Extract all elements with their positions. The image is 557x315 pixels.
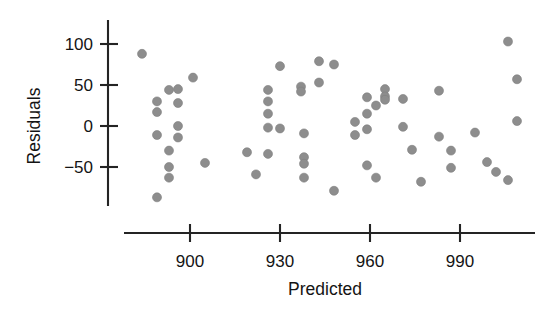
scatter-point [363, 109, 372, 118]
scatter-point [315, 57, 324, 66]
scatter-point [297, 87, 306, 96]
x-tick-label: 990 [446, 252, 474, 271]
scatter-point [138, 49, 147, 58]
scatter-point [447, 163, 456, 172]
scatter-point [165, 146, 174, 155]
y-tick-label: 0 [84, 117, 93, 136]
scatter-point [243, 148, 252, 157]
y-tick-label: 100 [65, 35, 93, 54]
scatter-point [435, 132, 444, 141]
scatter-point [417, 177, 426, 186]
scatter-point [372, 101, 381, 110]
x-tick-label: 930 [266, 252, 294, 271]
scatter-point [513, 117, 522, 126]
scatter-point [372, 173, 381, 182]
scatter-point [435, 86, 444, 95]
scatter-point [330, 186, 339, 195]
y-axis: −50050100 [64, 20, 118, 206]
scatter-point [264, 109, 273, 118]
scatter-point [492, 167, 501, 176]
y-tick-label: 50 [74, 76, 93, 95]
scatter-point [300, 129, 309, 138]
scatter-point [276, 124, 285, 133]
scatter-point [363, 93, 372, 102]
scatter-point [483, 158, 492, 167]
scatter-point [189, 73, 198, 82]
scatter-point [471, 128, 480, 137]
x-axis: 900930960990 [124, 224, 535, 271]
scatter-point [504, 176, 513, 185]
scatter-point [315, 78, 324, 87]
data-points-layer [138, 37, 522, 202]
scatter-point [300, 173, 309, 182]
scatter-point [276, 62, 285, 71]
scatter-point [264, 97, 273, 106]
scatter-point [153, 97, 162, 106]
scatter-point [447, 146, 456, 155]
scatter-point [264, 123, 273, 132]
scatter-plot-svg: −50050100 900930960990 Residuals Predict… [0, 0, 557, 315]
scatter-point [330, 60, 339, 69]
scatter-point [381, 95, 390, 104]
scatter-point [153, 108, 162, 117]
scatter-point [513, 75, 522, 84]
scatter-point [363, 161, 372, 170]
scatter-point [252, 170, 261, 179]
x-tick-label: 900 [176, 252, 204, 271]
scatter-point [174, 99, 183, 108]
scatter-point [363, 125, 372, 134]
scatter-point [153, 193, 162, 202]
scatter-point [351, 117, 360, 126]
residual-plot-figure: −50050100 900930960990 Residuals Predict… [0, 0, 557, 315]
scatter-point [351, 131, 360, 140]
scatter-point [264, 149, 273, 158]
scatter-point [174, 133, 183, 142]
scatter-point [174, 122, 183, 131]
scatter-point [408, 145, 417, 154]
scatter-point [174, 85, 183, 94]
scatter-point [504, 37, 513, 46]
x-tick-label: 960 [356, 252, 384, 271]
scatter-point [165, 163, 174, 172]
y-axis-title: Residuals [24, 87, 44, 164]
y-tick-label: −50 [64, 158, 93, 177]
scatter-point [264, 85, 273, 94]
scatter-point [300, 159, 309, 168]
scatter-point [165, 173, 174, 182]
scatter-point [201, 158, 210, 167]
scatter-point [153, 131, 162, 140]
scatter-point [399, 94, 408, 103]
scatter-point [399, 122, 408, 131]
scatter-point [165, 85, 174, 94]
x-axis-title: Predicted [288, 279, 362, 299]
